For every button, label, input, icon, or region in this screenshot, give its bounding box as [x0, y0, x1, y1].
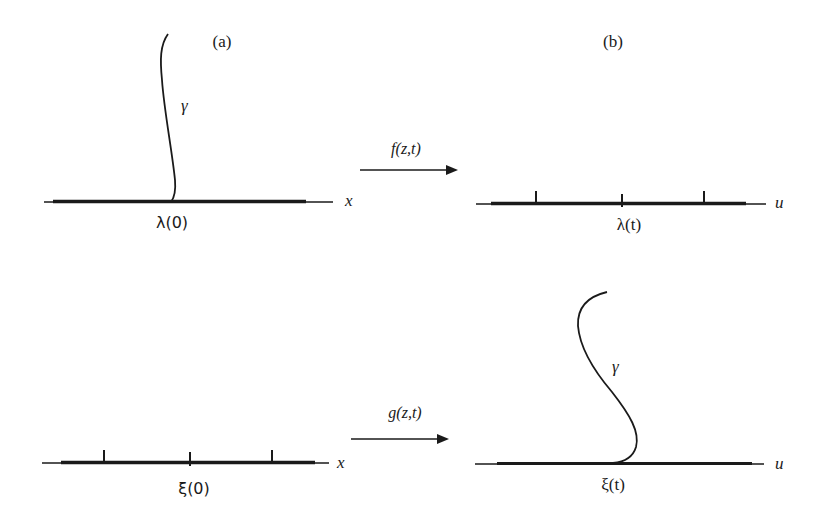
x-axis-label: x	[344, 191, 353, 210]
top-left-domain: γ x λ(0)	[44, 34, 353, 232]
u-axis-label: u	[775, 193, 784, 212]
bottom-left-domain: x ξ(0)	[42, 450, 345, 498]
xi-t-label: ξ(t)	[601, 475, 625, 494]
gamma-label: γ	[181, 96, 189, 115]
u-axis-label: u	[775, 454, 784, 473]
gamma-curve	[161, 34, 175, 202]
panel-label-b: (b)	[603, 32, 623, 51]
x-axis-label: x	[336, 453, 345, 472]
xi-zero-label: ξ(0)	[178, 479, 210, 498]
lambda-t-label: λ(t)	[617, 215, 641, 234]
gamma-curve	[578, 292, 637, 463]
panel-label-a: (a)	[213, 32, 232, 51]
map-arrow-f: f(z,t)	[360, 140, 458, 175]
arrow-head-icon	[446, 165, 458, 175]
map-arrow-g: g(z,t)	[351, 404, 449, 444]
gamma-label: γ	[612, 357, 620, 376]
conformal-map-diagram: (a) (b) γ x λ(0) f(z,t) u λ(t) x ξ(0)	[0, 0, 829, 531]
arrow-label-f: f(z,t)	[391, 140, 421, 158]
arrow-label-g: g(z,t)	[388, 404, 421, 422]
arrow-head-icon	[437, 434, 449, 444]
top-right-domain: u λ(t)	[476, 191, 784, 234]
bottom-right-domain: γ u ξ(t)	[475, 292, 784, 494]
lambda-zero-label: λ(0)	[156, 213, 188, 232]
